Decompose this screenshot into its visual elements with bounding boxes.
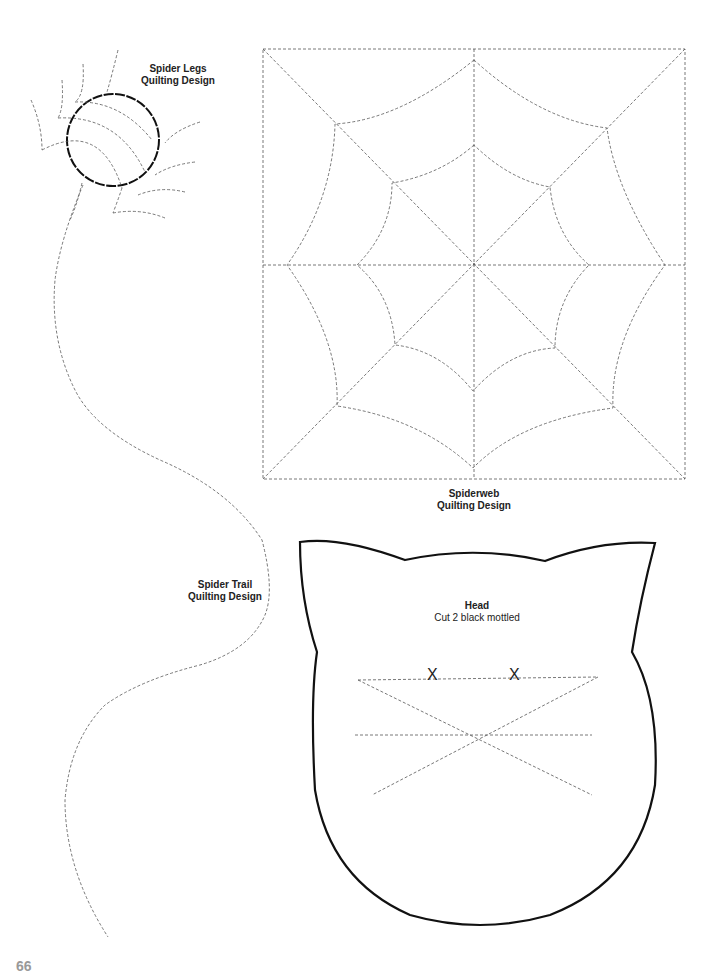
spider-trail-subtitle: Quilting Design <box>165 591 285 603</box>
head-title: Head <box>412 600 542 612</box>
spider-legs-subtitle: Quilting Design <box>118 75 238 87</box>
spider-legs-title: Spider Legs <box>118 63 238 75</box>
spider-trail-label: Spider Trail Quilting Design <box>165 579 285 603</box>
spiderweb-title: Spiderweb <box>414 488 534 500</box>
right-eye-mark: X <box>509 666 520 684</box>
spiderweb-label: Spiderweb Quilting Design <box>414 488 534 512</box>
spider-trail-design <box>54 185 269 937</box>
left-eye-mark: X <box>427 666 438 684</box>
head-label: Head Cut 2 black mottled <box>412 600 542 624</box>
spider-legs-label: Spider Legs Quilting Design <box>118 63 238 87</box>
head-cut-instructions: Cut 2 black mottled <box>434 612 520 623</box>
spider-trail-title: Spider Trail <box>165 579 285 591</box>
spiderweb-design <box>263 49 685 479</box>
spiderweb-subtitle: Quilting Design <box>414 500 534 512</box>
page-number: 66 <box>16 958 32 974</box>
cat-head-pattern[interactable] <box>300 541 656 925</box>
